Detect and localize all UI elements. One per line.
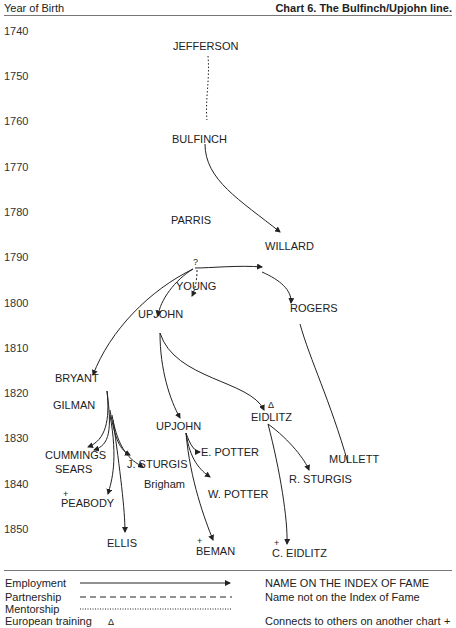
node-upjohn-1: UPJOHN	[138, 308, 183, 320]
node-young: YOUNG	[176, 280, 216, 292]
node-cummings: CUMMINGS	[45, 449, 106, 461]
node-willard: WILLARD	[265, 240, 314, 252]
legend-index-fame: NAME ON THE INDEX OF FAME	[265, 577, 429, 589]
node-brigham: Brigham	[144, 478, 185, 490]
uncertain-marker: ?	[193, 256, 198, 268]
connects-icon: +	[444, 615, 450, 627]
connections	[0, 0, 456, 628]
node-w-potter: W. POTTER	[208, 488, 269, 500]
node-eidlitz: EIDLITZ	[251, 411, 292, 423]
node-e-potter: E. POTTER	[201, 446, 259, 458]
node-bulfinch: BULFINCH	[172, 133, 227, 145]
chart: Year of Birth Chart 6. The Bulfinch/Upjo…	[0, 0, 456, 628]
node-sears: SEARS	[55, 463, 92, 475]
node-bryant: BRYANT	[55, 372, 99, 384]
legend-employment: Employment	[5, 577, 66, 589]
node-mullett: MULLETT	[329, 453, 379, 465]
legend-connects: Connects to others on another chart	[265, 615, 441, 627]
node-j-sturgis: J. STURGIS	[127, 458, 188, 470]
node-rogers: ROGERS	[290, 302, 338, 314]
european-training-icon: Δ	[268, 399, 274, 411]
legend-divider	[4, 570, 452, 571]
node-peabody: PEABODY	[61, 497, 114, 509]
legend-partnership: Partnership	[5, 591, 61, 603]
legend-european: European training	[5, 615, 92, 627]
legend-not-index: Name not on the Index of Fame	[265, 591, 420, 603]
node-gilman: GILMAN	[53, 399, 95, 411]
node-upjohn-2: UPJOHN	[156, 420, 201, 432]
node-parris: PARRIS	[171, 214, 211, 226]
node-r-sturgis: R. STURGIS	[289, 473, 352, 485]
node-beman: BEMAN	[196, 545, 235, 557]
node-c-eidlitz: C. EIDLITZ	[272, 547, 327, 559]
european-training-icon: Δ	[108, 616, 114, 628]
node-jefferson: JEFFERSON	[173, 40, 238, 52]
node-ellis: ELLIS	[107, 537, 137, 549]
legend-mentorship: Mentorship	[5, 603, 59, 615]
